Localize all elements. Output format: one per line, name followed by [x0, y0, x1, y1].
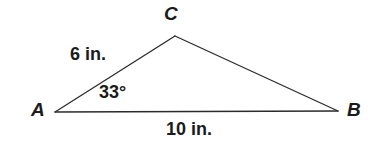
- triangle-side-cb: [175, 36, 338, 111]
- vertex-label-b: B: [347, 100, 361, 119]
- vertex-label-a: A: [31, 100, 45, 119]
- side-length-label-ab: 10 in.: [166, 120, 212, 138]
- vertex-label-c: C: [164, 4, 178, 23]
- triangle-figure: A B C 6 in. 33° 10 in.: [0, 0, 374, 147]
- triangle-side-ab: [55, 111, 338, 112]
- angle-measure-label-a: 33°: [99, 83, 126, 101]
- side-length-label-ac: 6 in.: [70, 45, 106, 63]
